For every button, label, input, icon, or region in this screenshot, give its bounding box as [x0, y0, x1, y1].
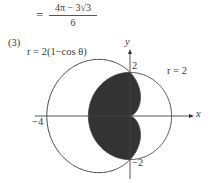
tick-label-x-neg4: −4	[32, 116, 43, 127]
y-axis-arrow-icon	[128, 49, 132, 54]
polar-diagram	[0, 0, 210, 183]
tick-label-y-neg2: −2	[132, 157, 143, 168]
x-axis-arrow-icon	[189, 114, 194, 118]
y-axis-label: y	[125, 36, 130, 47]
tick-label-y-2: 2	[132, 60, 137, 71]
x-axis-label: x	[196, 108, 201, 119]
